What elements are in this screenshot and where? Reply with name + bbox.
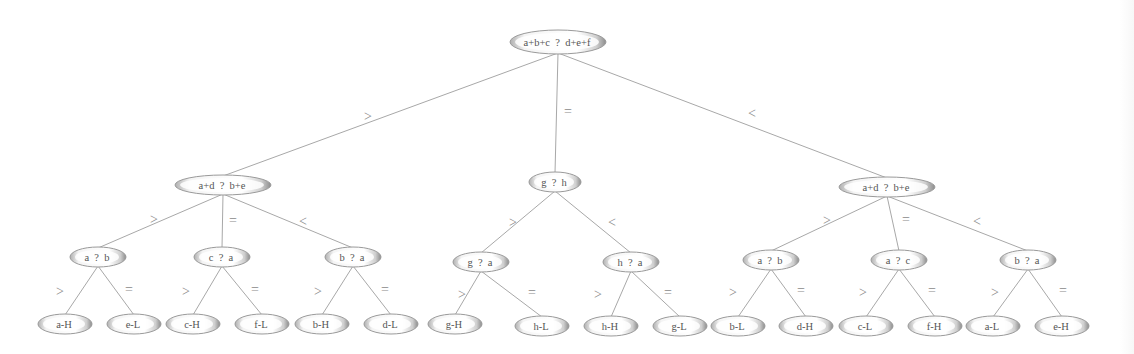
edge-M2-M2b [631,271,680,317]
node-label: e-L [126,319,141,330]
edge-label: = [251,282,259,297]
edge-label: < [973,214,981,229]
tree-node-L1a: a-H [38,314,92,334]
node-label: b ? a [339,252,364,263]
tree-node-R2a: c-L [839,316,893,336]
tree-node-L1b: e-L [107,314,161,334]
tree-node-M2: h ? a [603,252,659,272]
edge-L3-L3a [322,266,353,315]
edge-label: > [56,284,64,299]
edge-root-L [223,53,558,176]
tree-node-M2a: h-H [584,316,638,336]
edge-label: = [381,282,389,297]
edge-label: > [314,284,322,299]
node-label: h-H [602,321,619,332]
edge-L-L1 [98,194,223,248]
edge-R1-R1a [738,269,771,317]
node-label: g ? h [541,177,567,188]
decision-tree: >=<>=<><>=<>=>=>=>=>=>=>=>= a+b+c ? d+e+… [0,0,1134,354]
tree-node-M1: g ? a [453,252,509,272]
edge-L-L2 [222,194,223,248]
node-label: h-L [533,321,548,332]
tree-node-R3b: e-H [1035,316,1089,336]
edge-label: > [364,109,372,124]
tree-node-R1a: b-L [711,316,765,336]
node-label: f-H [927,321,942,332]
tree-node-L1: a ? b [70,247,126,267]
edge-label: = [664,285,672,300]
edge-R-R2 [887,196,899,251]
edge-label: > [729,285,737,300]
edge-label: = [928,283,936,298]
tree-node-M1a: g-H [428,314,482,334]
node-label: c ? a [209,252,234,263]
tree-node-R3a: a-L [966,316,1020,336]
right-margin-strip [1120,0,1134,354]
node-label: g-H [446,319,463,330]
edge-label: > [859,285,867,300]
node-label: d-L [382,319,397,330]
tree-node-root: a+b+c ? d+e+f [510,30,606,54]
edge-label: = [564,104,572,119]
edge-label: = [125,282,133,297]
node-label: a ? b [84,252,109,263]
edge-R2-R2a [866,269,899,317]
edge-M-M1 [481,191,555,253]
edge-label: > [458,287,466,302]
tree-node-L3: b ? a [325,247,381,267]
node-label: a ? c [886,255,911,266]
node-label: b-L [729,321,744,332]
edge-label: = [902,212,910,227]
tree-node-L: a+d ? b+e [175,175,271,195]
edge-L2-L2a [193,266,222,315]
edge-label: = [229,213,237,228]
node-label: c-H [184,319,200,330]
edge-R3-R3b [1028,269,1062,317]
edge-label: > [823,213,831,228]
edge-L-L3 [223,194,353,248]
edge-label: = [528,285,536,300]
edge-label: > [182,284,190,299]
node-label: b-H [313,319,330,330]
node-label: e-H [1053,321,1069,332]
node-label: a+d ? b+e [863,182,910,193]
tree-node-M1b: h-L [515,316,569,336]
node-label: g ? a [467,257,492,268]
tree-node-R3: b ? a [1000,250,1056,270]
node-label: a+d ? b+e [199,180,246,191]
node-label: a ? b [757,255,782,266]
edge-root-R [558,53,887,178]
tree-node-M: g ? h [529,172,581,192]
node-label: a-H [56,319,72,330]
tree-node-R1b: d-H [779,316,833,336]
edge-label: > [509,215,517,230]
tree-node-R2b: f-H [908,316,962,336]
edge-label: = [1059,283,1067,298]
edge-M2-M2a [611,271,631,317]
edge-L1-L1a [65,266,98,315]
node-label: h ? a [617,257,642,268]
tree-node-M2b: g-L [653,316,707,336]
edge-M-M2 [555,191,631,253]
tree-node-R2: a ? c [871,250,927,270]
node-label: b ? a [1014,255,1039,266]
node-label: f-L [254,319,267,330]
edge-label: > [150,212,158,227]
node-label: d-H [797,321,814,332]
tree-node-L3a: b-H [295,314,349,334]
edge-label: = [797,283,805,298]
edge-labels-layer: >=<>=<><>=<>=>=>=>=>=>=>=>= [56,104,1067,302]
tree-node-R1: a ? b [743,250,799,270]
tree-node-L2: c ? a [194,247,250,267]
edge-label: > [594,287,602,302]
tree-node-L2b: f-L [235,314,289,334]
tree-node-L2a: c-H [166,314,220,334]
node-label: c-L [858,321,873,332]
edge-label: < [748,106,756,121]
node-label: a+b+c ? d+e+f [524,37,591,48]
node-label: g-L [671,321,686,332]
edge-label: < [608,215,616,230]
edge-label: > [991,285,999,300]
edge-root-M [555,53,558,173]
tree-node-L3b: d-L [364,314,418,334]
